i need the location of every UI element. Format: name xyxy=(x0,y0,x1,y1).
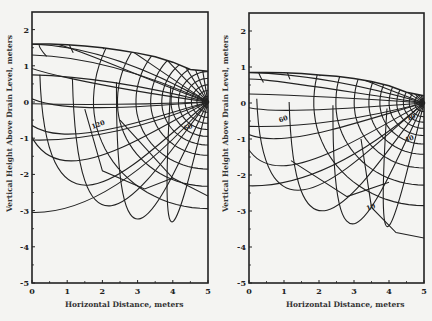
x-tick-label: 5 xyxy=(205,286,211,296)
x-tick-label: 5 xyxy=(421,286,427,296)
y-tick-label: 2 xyxy=(23,25,29,35)
x-tick-label: 0 xyxy=(29,286,35,296)
streamline xyxy=(400,0,424,103)
deep-flow-curve xyxy=(291,161,389,197)
y-axis-label-right: Vertical Height Above Drain Level, meter… xyxy=(221,35,230,212)
x-tick-label: 1 xyxy=(281,286,287,296)
flow-net-left-plot: 012345-5-4-3-2-101212060 xyxy=(0,0,216,321)
x-tick-label: 3 xyxy=(135,286,141,296)
contour-label: 120 xyxy=(90,118,106,130)
y-tick-label: -1 xyxy=(20,133,29,143)
y-tick-label: -2 xyxy=(237,170,246,180)
y-tick-label: -3 xyxy=(237,206,246,216)
y-tick-label: -3 xyxy=(20,206,29,216)
x-axis-label-left: Horizontal Distance, meters xyxy=(65,300,183,309)
x-tick-label: 2 xyxy=(316,286,322,296)
x-tick-label: 3 xyxy=(351,286,357,296)
y-tick-label: 1 xyxy=(240,62,246,72)
plot-frame xyxy=(32,12,208,283)
y-tick-label: -4 xyxy=(20,242,29,252)
drain-marker xyxy=(421,101,426,106)
equipotential-edge-curve xyxy=(32,44,208,102)
x-tick-label: 4 xyxy=(386,286,392,296)
streamline xyxy=(184,0,208,102)
x-tick-label: 2 xyxy=(100,286,106,296)
y-axis-label-left: Vertical Height Above Drain Level, meter… xyxy=(5,35,14,212)
deep-flow-curve xyxy=(120,120,208,196)
streamline xyxy=(167,86,208,222)
y-tick-label: -1 xyxy=(237,134,246,144)
y-tick-label: 0 xyxy=(23,97,29,107)
x-axis-label-right: Horizontal Distance, meters xyxy=(286,300,404,309)
y-tick-label: 2 xyxy=(240,26,246,36)
streamline xyxy=(62,16,208,102)
drain-marker xyxy=(205,100,210,105)
x-tick-label: 4 xyxy=(170,286,176,296)
contour-label: 60 xyxy=(278,114,290,125)
streamline xyxy=(336,0,424,103)
flow-net-right-panel: 012345-5-4-3-2-101260104010 Vertical Hei… xyxy=(216,0,432,321)
flow-net-curves xyxy=(11,0,208,222)
equipotential-line xyxy=(118,9,209,186)
streamline xyxy=(239,79,424,103)
flow-net-left-panel: 012345-5-4-3-2-101212060 Vertical Height… xyxy=(0,0,216,321)
x-tick-label: 1 xyxy=(64,286,70,296)
flow-net-curves xyxy=(228,0,424,238)
y-tick-label: -5 xyxy=(237,278,246,288)
flow-net-right-plot: 012345-5-4-3-2-101260104010 xyxy=(216,0,432,321)
x-tick-label: 0 xyxy=(246,286,252,296)
y-tick-label: 1 xyxy=(23,61,29,71)
y-tick-label: 0 xyxy=(240,98,246,108)
streamline xyxy=(19,71,208,161)
y-tick-label: -5 xyxy=(20,278,29,288)
y-tick-label: -2 xyxy=(20,169,29,179)
y-tick-label: -4 xyxy=(237,242,246,252)
